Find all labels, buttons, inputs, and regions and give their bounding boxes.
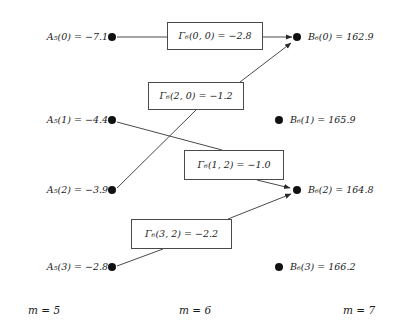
edge-segment-box-32-to-b6-2: [228, 194, 291, 219]
trellis-diagram: A₅(0) = −7.1 A₅(1) = −4.4 A₅(2) = −3.9 A…: [0, 0, 406, 331]
node-label-b6-1: B₆(1) = 165.9: [290, 115, 355, 125]
gamma-box-3-2-label: Γ₆(3, 2) = −2.2: [145, 229, 218, 239]
edge-segment-box-12-to-b6-2: [257, 180, 290, 188]
gamma-box-3-2: Γ₆(3, 2) = −2.2: [131, 219, 232, 249]
gamma-box-1-2-label: Γ₆(1, 2) = −1.0: [197, 160, 270, 170]
node-dot-a5-0: [108, 33, 116, 41]
gamma-box-0-0-label: Γ₆(0, 0) = −2.8: [178, 31, 251, 41]
node-label-b6-3: B₆(3) = 166.2: [290, 262, 355, 272]
gamma-box-1-2: Γ₆(1, 2) = −1.0: [184, 150, 284, 180]
gamma-box-2-0: Γ₆(2, 0) = −1.2: [148, 82, 244, 110]
node-dot-b6-2: [293, 186, 301, 194]
node-dot-b6-3: [275, 263, 283, 271]
node-dot-a5-2: [108, 186, 116, 194]
node-label-a5-0: A₅(0) = −7.1: [47, 32, 108, 42]
edge-segment-a5-3-to-box-32: [117, 249, 163, 266]
node-dot-b6-0: [293, 33, 301, 41]
node-dot-a5-1: [108, 116, 116, 124]
stage-label-m5: m = 5: [28, 305, 60, 316]
edge-segment-a5-1-to-box-12: [117, 122, 222, 150]
node-label-a5-2: A₅(2) = −3.9: [47, 185, 108, 195]
gamma-box-2-0-label: Γ₆(2, 0) = −1.2: [159, 91, 232, 101]
node-dot-b6-1: [275, 116, 283, 124]
gamma-box-0-0: Γ₆(0, 0) = −2.8: [167, 22, 263, 50]
stage-label-m6: m = 6: [179, 305, 211, 316]
node-label-a5-1: A₅(1) = −4.4: [47, 115, 108, 125]
node-label-b6-0: B₆(0) = 162.9: [308, 32, 373, 42]
stage-label-m7: m = 7: [343, 305, 375, 316]
node-label-b6-2: B₆(2) = 164.8: [308, 185, 373, 195]
node-dot-a5-3: [108, 263, 116, 271]
node-label-a5-3: A₅(3) = −2.8: [47, 262, 108, 272]
